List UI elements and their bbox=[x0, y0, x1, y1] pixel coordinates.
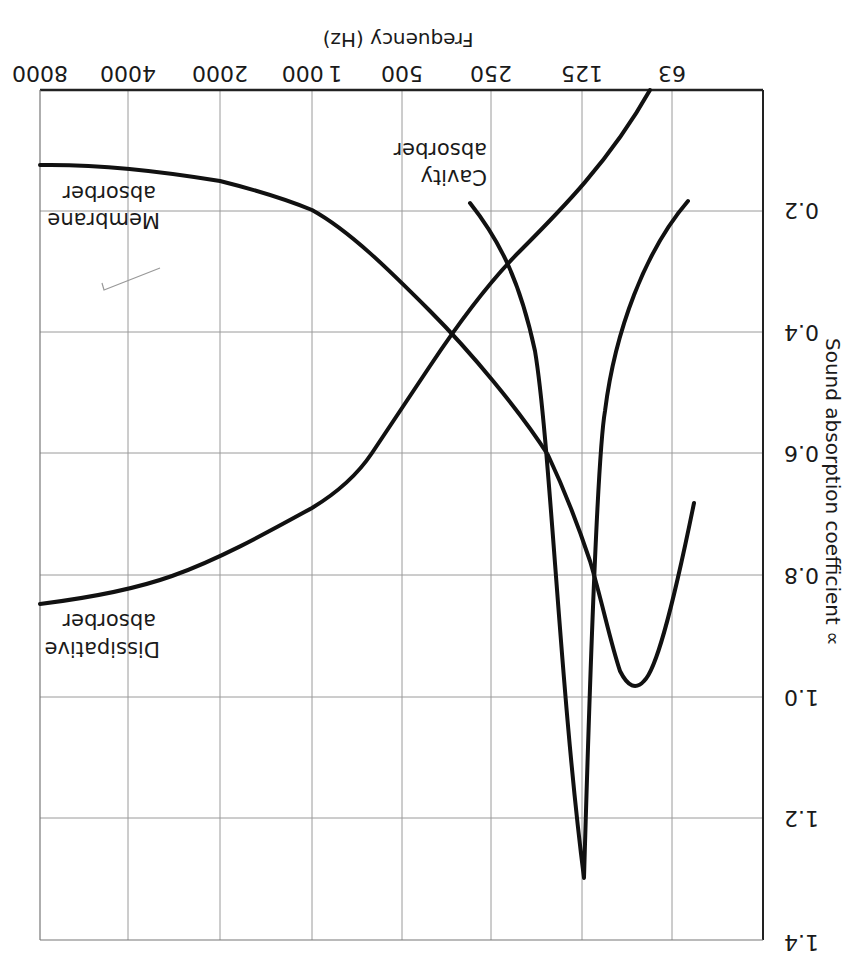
y-axis-label: Sound absorption coefficient ∝ bbox=[821, 338, 845, 645]
y-tick-0-8: 0.8 bbox=[784, 563, 819, 588]
y-tick-labels: 0.2 0.4 0.6 0.8 1.0 1.2 1.4 bbox=[784, 198, 819, 955]
x-tick-labels: 63 125 250 500 1 000 2000 4000 8000 bbox=[12, 61, 686, 86]
x-axis-label: Frequency (Hz) bbox=[323, 28, 474, 52]
x-tick-500: 500 bbox=[381, 61, 423, 86]
y-tick-1-0: 1.0 bbox=[784, 685, 819, 710]
y-tick-0-6: 0.6 bbox=[784, 441, 819, 466]
dissipative-label-line1: Dissipative bbox=[45, 637, 160, 661]
cavity-label-line2: absorber bbox=[393, 138, 487, 162]
x-tick-8000: 8000 bbox=[12, 61, 68, 86]
y-tick-1-2: 1.2 bbox=[784, 806, 819, 831]
x-tick-250: 250 bbox=[470, 61, 512, 86]
x-tick-2000: 2000 bbox=[192, 61, 248, 86]
x-tick-125: 125 bbox=[561, 61, 603, 86]
check-mark bbox=[102, 268, 160, 290]
x-tick-4000: 4000 bbox=[100, 61, 156, 86]
y-tick-0-4: 0.4 bbox=[784, 320, 819, 345]
x-tick-1000: 1 000 bbox=[282, 61, 342, 86]
cavity-label-line1: Cavity bbox=[421, 165, 487, 189]
dissipative-label-line2: absorber bbox=[62, 609, 156, 633]
x-tick-63: 63 bbox=[658, 61, 686, 86]
membrane-absorber-curve bbox=[40, 165, 694, 686]
dissipative-absorber-curve bbox=[40, 90, 650, 604]
membrane-label-line1: Membrane bbox=[47, 208, 160, 232]
cavity-absorber-curve bbox=[470, 201, 688, 878]
y-tick-0-2: 0.2 bbox=[784, 198, 819, 223]
y-tick-1-4: 1.4 bbox=[784, 930, 819, 955]
x-gridlines bbox=[128, 90, 672, 940]
membrane-label-line2: absorber bbox=[62, 181, 156, 205]
absorption-chart: 63 125 250 500 1 000 2000 4000 8000 Freq… bbox=[0, 0, 860, 971]
